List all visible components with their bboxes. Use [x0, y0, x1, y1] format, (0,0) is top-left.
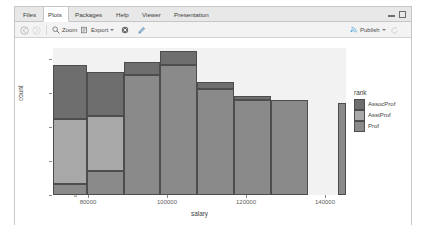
legend-swatch-prof: [354, 121, 365, 132]
bar-segment-assocprof: [87, 72, 124, 116]
tab-viewer[interactable]: Viewer: [138, 7, 168, 22]
zoom-button[interactable]: Zoom: [52, 22, 77, 38]
bar-segment-assocprof: [234, 96, 271, 100]
legend-item: AsstProf: [354, 110, 410, 121]
forward-button[interactable]: [32, 22, 41, 38]
legend-item: AssocProf: [354, 99, 410, 110]
export-button-label: Export: [91, 27, 108, 33]
legend: rank AssocProf AsstProf Prof: [354, 89, 410, 132]
legend-item: Prof: [354, 121, 410, 132]
tab-plots[interactable]: Plots: [43, 7, 69, 22]
export-button[interactable]: Export: [81, 22, 114, 38]
plots-toolbar: Zoom Export: [15, 22, 411, 38]
tab-plots-label: Plots: [48, 11, 62, 18]
minimize-icon[interactable]: [388, 11, 396, 19]
plot-canvas: count 0 10 20 30 40: [15, 39, 411, 225]
zoom-button-label: Zoom: [62, 27, 77, 33]
bar-segment-prof: [53, 184, 87, 195]
window-controls: [388, 9, 407, 20]
bar-segment-prof: [197, 89, 234, 195]
legend-title: rank: [354, 89, 410, 96]
tab-presentation-label: Presentation: [174, 11, 209, 18]
refresh-button[interactable]: [390, 22, 399, 38]
tab-packages-label: Packages: [75, 11, 102, 18]
x-tick-label: 80000: [68, 199, 108, 205]
chevron-down-icon: [382, 29, 386, 31]
back-button[interactable]: [20, 22, 29, 38]
x-tick-label: 140000: [305, 199, 345, 205]
export-icon: [81, 26, 89, 34]
bar-bin-4: [160, 51, 197, 195]
plots-pane: Files Plots Packages Help Viewer Present…: [14, 6, 412, 225]
legend-swatch-assocprof: [354, 99, 365, 110]
x-tick-label: 100000: [147, 199, 187, 205]
bar-segment-prof: [87, 171, 124, 195]
bar-segment-asstprof: [53, 119, 87, 184]
bar-bin-8: [338, 103, 346, 195]
refresh-icon: [390, 26, 399, 35]
y-axis-label: count: [17, 85, 24, 101]
bar-bin-6: [234, 96, 271, 195]
legend-label: Prof: [368, 123, 379, 129]
bar-bin-5: [197, 82, 234, 195]
bar-segment-prof: [338, 103, 346, 195]
tab-packages[interactable]: Packages: [71, 7, 110, 22]
bar-segment-assocprof: [124, 62, 160, 75]
tab-viewer-label: Viewer: [142, 11, 161, 18]
x-axis-label: salary: [53, 210, 346, 217]
publish-button[interactable]: Publish: [349, 22, 386, 38]
bar-bin-1: [53, 65, 87, 195]
tab-files[interactable]: Files: [19, 7, 43, 22]
tab-files-label: Files: [23, 11, 36, 18]
tab-help[interactable]: Help: [112, 7, 136, 22]
remove-plot-button[interactable]: [121, 22, 129, 38]
maximize-icon[interactable]: [399, 11, 407, 19]
bar-bin-3: [124, 62, 160, 195]
bar-bin-2: [87, 72, 124, 195]
legend-label: AsstProf: [368, 112, 391, 118]
plot-panel: [53, 48, 346, 195]
legend-swatch-asstprof: [354, 110, 365, 121]
clear-all-plots-button[interactable]: [137, 22, 146, 38]
bar-segment-assocprof: [53, 65, 87, 119]
x-tick-label: 120000: [226, 199, 266, 205]
publish-button-label: Publish: [360, 27, 380, 33]
tab-presentation[interactable]: Presentation: [170, 7, 222, 22]
bar-bin-7: [271, 100, 308, 195]
back-arrow-icon: [20, 26, 29, 35]
tab-help-label: Help: [116, 11, 129, 18]
bar-segment-prof: [160, 65, 197, 195]
bar-segment-prof: [271, 100, 308, 195]
bar-segment-prof: [234, 100, 271, 195]
legend-label: AssocProf: [368, 101, 395, 107]
forward-arrow-icon: [32, 26, 41, 35]
bar-segment-assocprof: [197, 82, 234, 89]
bar-segment-prof: [124, 75, 160, 195]
remove-plot-icon: [121, 26, 129, 34]
pane-tab-bar: Files Plots Packages Help Viewer Present…: [15, 7, 411, 22]
clear-all-plots-icon: [137, 26, 146, 35]
bar-segment-assocprof: [160, 51, 197, 65]
publish-icon: [349, 26, 358, 34]
chevron-down-icon: [110, 29, 114, 31]
magnifier-icon: [52, 26, 60, 34]
bar-segment-asstprof: [87, 116, 124, 171]
